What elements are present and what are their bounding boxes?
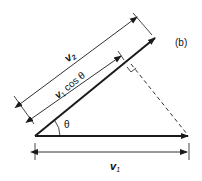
dim-v2-line xyxy=(20,17,137,104)
dim-v2-start-tick xyxy=(14,96,34,124)
theta-arc xyxy=(55,120,61,136)
right-angle-marker xyxy=(127,67,136,72)
panel-label: (b) xyxy=(175,37,187,48)
dim-v1cos-line xyxy=(31,56,121,119)
vector-v2 xyxy=(35,38,155,136)
label-theta: θ xyxy=(64,119,70,130)
label-v1: v1 xyxy=(110,160,120,173)
dim-v1cos-tick xyxy=(118,51,124,60)
projection-diagram: v2 v1 cos θ θ v1 (b) xyxy=(0,0,202,181)
dim-v2-end-tick xyxy=(133,13,152,35)
projection-dashed-line xyxy=(131,64,187,134)
